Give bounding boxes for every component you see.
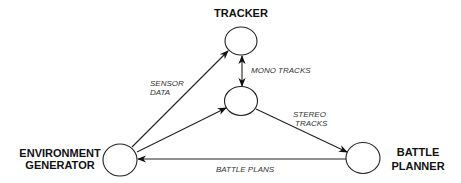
environment-generator-title-line2: GENERATOR (25, 159, 94, 171)
environment-generator-node (103, 144, 137, 176)
env-to-stereo-arrow (137, 108, 226, 152)
battle-planner-title-line2: PLANNER (391, 160, 444, 172)
sensor-data-label-line2: DATA (150, 88, 170, 97)
sensor-data-arrow (132, 51, 228, 147)
battle-planner-node (346, 143, 380, 174)
stereo-tracks-label-line2: TRACKS (295, 119, 328, 128)
sensor-data-label-line1: SENSOR (150, 79, 184, 88)
battle-planner-title-line1: BATTLE (397, 146, 440, 158)
stereo-tracks-label-line1: STEREO (293, 110, 326, 119)
mono-tracks-label: MONO TRACKS (251, 66, 311, 75)
data-flow-diagram: TRACKER ENVIRONMENT GENERATOR BATTLE PLA… (0, 0, 461, 183)
battle-plans-label: BATTLE PLANS (216, 165, 275, 174)
environment-generator-title-line1: ENVIRONMENT (19, 147, 101, 159)
stereo-node (225, 87, 258, 116)
tracker-node (225, 27, 257, 55)
tracker-title: TRACKER (214, 7, 268, 19)
